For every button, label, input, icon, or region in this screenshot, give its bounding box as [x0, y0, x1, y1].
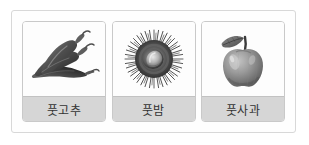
- card-green-chestnut[interactable]: 풋밤: [112, 21, 196, 122]
- card-label-green-apple: 풋사과: [202, 96, 284, 121]
- card-image-area-green-pepper: [23, 22, 105, 96]
- figure-frame: 풋고추: [11, 10, 296, 133]
- card-label-green-chestnut: 풋밤: [113, 96, 195, 121]
- card-image-area-green-apple: [202, 22, 284, 96]
- card-green-pepper[interactable]: 풋고추: [22, 21, 106, 122]
- card-image-area-green-chestnut: [113, 22, 195, 96]
- green-chestnut-burr-photo: [123, 29, 185, 89]
- card-label-green-pepper: 풋고추: [23, 96, 105, 121]
- card-green-apple[interactable]: 풋사과: [201, 21, 285, 122]
- green-chili-peppers-photo: [28, 28, 100, 90]
- card-row: 풋고추: [12, 11, 295, 132]
- green-apple-photo: [212, 27, 274, 91]
